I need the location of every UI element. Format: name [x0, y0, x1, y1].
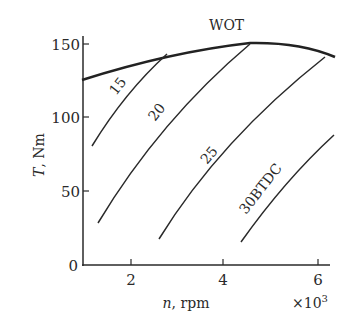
label-20: 20 [145, 100, 169, 124]
y-axis-unit: , Nm [31, 133, 47, 167]
x-axis-unit: , rpm [172, 295, 210, 311]
y-tick-label-0: 0 [68, 257, 78, 275]
svg-text:n, rpm: n, rpm [163, 295, 210, 311]
y-ticks [83, 44, 89, 191]
curve-wot [82, 43, 335, 80]
curve-20 [98, 44, 250, 223]
y-tick-label-100: 100 [51, 109, 80, 127]
svg-text:×103: ×103 [292, 293, 328, 311]
x-tick-label-4: 4 [218, 271, 228, 289]
x-axis-var: n [163, 295, 172, 311]
label-30btdc: 30BTDC [236, 160, 285, 217]
x-axis-multiplier: ×103 [292, 293, 328, 311]
label-15: 15 [106, 74, 130, 98]
svg-text:T, Nm: T, Nm [31, 133, 47, 177]
y-tick-label-50: 50 [61, 183, 80, 201]
torque-speed-chart: 150 100 50 0 2 4 6 n, rpm ×103 T, Nm WOT… [0, 0, 354, 332]
y-axis-title: T, Nm [31, 133, 47, 177]
label-wot: WOT [209, 17, 245, 33]
x-tick-label-6: 6 [313, 271, 323, 289]
label-25: 25 [197, 143, 221, 167]
y-tick-label-150: 150 [51, 36, 80, 54]
x-ticks [131, 259, 318, 265]
x-axis-title: n, rpm [163, 295, 210, 311]
x-tick-label-2: 2 [126, 271, 136, 289]
